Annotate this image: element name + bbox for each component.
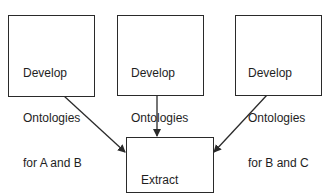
label-line: Develop [23, 66, 82, 81]
node-develop-ac: Develop Ontologies for A and C [117, 15, 204, 96]
node-label: Develop Ontologies for B and C [248, 36, 309, 196]
label-line: Ontologies [23, 111, 82, 126]
node-label: Extract Common Ontologies [141, 143, 198, 196]
label-line: Develop [248, 66, 309, 81]
label-line: Develop [131, 66, 190, 81]
label-line: Ontologies [248, 111, 309, 126]
label-line: Ontologies [131, 111, 190, 126]
label-line: for A and B [23, 156, 82, 171]
label-line: for B and C [248, 156, 309, 171]
node-extract-common: Extract Common Ontologies [126, 137, 214, 193]
label-line: Extract [141, 173, 198, 188]
node-develop-bc: Develop Ontologies for B and C [235, 15, 322, 96]
node-develop-ab: Develop Ontologies for A and B [8, 15, 95, 97]
node-label: Develop Ontologies for A and B [23, 36, 82, 196]
